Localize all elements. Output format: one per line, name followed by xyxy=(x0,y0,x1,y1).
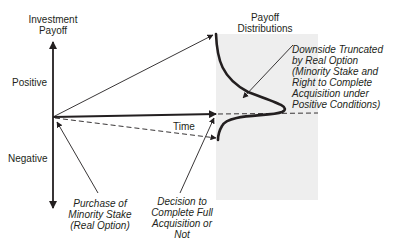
downside-line: (Minority Stake and xyxy=(292,66,394,77)
purchase-annotation: Purchase of Minority Stake (Real Option) xyxy=(62,198,138,231)
purchase-line: Purchase of xyxy=(62,198,138,209)
decision-line: Not xyxy=(144,229,220,240)
y-axis-title-line1: Investment xyxy=(22,14,84,25)
y-axis-title: Investment Payoff xyxy=(22,14,84,36)
positive-label: Positive xyxy=(12,77,47,88)
time-label: Time xyxy=(173,121,195,132)
purchase-line: Minority Stake xyxy=(62,209,138,220)
decision-line: Complete Full xyxy=(144,207,220,218)
downside-line: Right to Complete xyxy=(292,77,394,88)
y-axis-title-line2: Payoff xyxy=(22,25,84,36)
downside-line: by Real Option xyxy=(292,55,394,66)
upper-payoff-line xyxy=(53,35,213,117)
negative-label: Negative xyxy=(8,153,47,164)
downside-line: Acquisition under xyxy=(292,88,394,99)
purchase-pointer xyxy=(57,122,98,193)
distributions-title-line1: Payoff xyxy=(230,12,300,23)
distributions-title: Payoff Distributions xyxy=(230,12,300,34)
downside-line: Positive Conditions) xyxy=(292,99,394,110)
truncated-distribution-curve xyxy=(216,34,285,140)
decision-annotation: Decision to Complete Full Acquisition or… xyxy=(144,196,220,240)
real-option-payoff-diagram: Investment Payoff Positive Negative Time… xyxy=(0,0,395,246)
purchase-line: (Real Option) xyxy=(62,220,138,231)
decision-line: Decision to xyxy=(144,196,220,207)
downside-line: Downside Truncated xyxy=(292,44,394,55)
decision-line: Acquisition or xyxy=(144,218,220,229)
time-arrow xyxy=(53,114,216,117)
downside-annotation: Downside Truncated by Real Option (Minor… xyxy=(292,44,394,110)
downside-pointer xyxy=(243,45,293,98)
distributions-title-line2: Distributions xyxy=(230,23,300,34)
